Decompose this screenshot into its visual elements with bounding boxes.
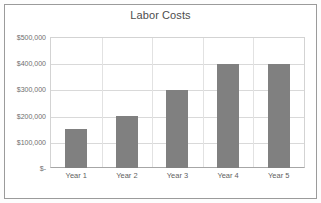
chart-container: Labor Costs $-$100,000$200,000$300,000$4… [0, 0, 321, 203]
bar-slot [51, 38, 102, 168]
x-axis-category-label: Year 5 [253, 171, 304, 180]
bar-slot [152, 38, 203, 168]
x-axis-category-label: Year 3 [152, 171, 203, 180]
y-axis-tick-labels: $-$100,000$200,000$300,000$400,000$500,0… [0, 37, 46, 168]
y-axis-tick-label: $100,000 [17, 138, 46, 145]
x-axis-category-label: Year 4 [203, 171, 254, 180]
bar-slot [253, 38, 304, 168]
bar-slot [102, 38, 153, 168]
bar[interactable] [65, 129, 87, 168]
y-axis-tick-label: $400,000 [17, 60, 46, 67]
x-axis-category-label: Year 1 [51, 171, 102, 180]
x-axis-category-label: Year 2 [102, 171, 153, 180]
y-axis-tick-label: $200,000 [17, 112, 46, 119]
bar-slot [203, 38, 254, 168]
bar[interactable] [217, 64, 239, 168]
x-axis-category-labels: Year 1Year 2Year 3Year 4Year 5 [51, 171, 304, 187]
bar[interactable] [268, 64, 290, 168]
chart-title: Labor Costs [0, 9, 321, 21]
bar[interactable] [166, 90, 188, 168]
y-axis-tick-label: $500,000 [17, 34, 46, 41]
y-axis-tick-label: $300,000 [17, 86, 46, 93]
y-axis-tick-label: $- [40, 165, 46, 172]
bar-series [51, 38, 304, 168]
bar[interactable] [116, 116, 138, 168]
